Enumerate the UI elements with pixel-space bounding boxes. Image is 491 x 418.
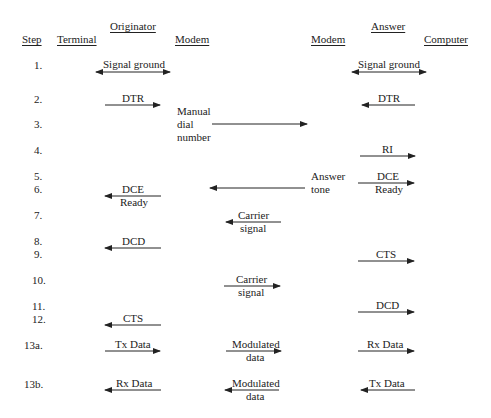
carrier-signal-answer-label-1: Carrier <box>238 209 269 222</box>
dce-ready-answer-label-2: Ready <box>375 183 403 196</box>
dce-ready-answer-label-1: DCE <box>377 170 399 183</box>
rx-data-originator-label: Rx Data <box>116 377 152 390</box>
signal-ground-originator-label: Signal ground <box>103 58 165 71</box>
rx-data-answer-label: Rx Data <box>367 338 403 351</box>
tx-data-answer-label: Tx Data <box>369 377 405 390</box>
answer-tone-label-2: tone <box>311 183 330 196</box>
modulated-data-reverse-label-1: Modulated <box>232 377 280 390</box>
cts-originator-label: CTS <box>123 312 143 325</box>
signal-ground-answer-label: Signal ground <box>358 58 420 71</box>
tx-data-originator-label: Tx Data <box>115 338 151 351</box>
manual-dial-label-3: number <box>177 131 211 144</box>
modulated-data-forward-label-2: data <box>246 351 264 364</box>
dce-ready-originator-label-1: DCE <box>122 183 144 196</box>
cts-answer-label: CTS <box>376 248 396 261</box>
answer-tone-label-1: Answer <box>311 170 345 183</box>
modulated-data-forward-label-1: Modulated <box>232 338 280 351</box>
manual-dial-label-2: dial <box>177 118 194 131</box>
dtr-originator-label: DTR <box>122 92 144 105</box>
dce-ready-originator-label-2: Ready <box>120 196 148 209</box>
dcd-answer-label: DCD <box>376 299 399 312</box>
manual-dial-label-1: Manual <box>177 105 211 118</box>
dtr-answer-label: DTR <box>378 92 400 105</box>
modulated-data-reverse-label-2: data <box>246 390 264 403</box>
ri-label: RI <box>382 143 393 156</box>
dcd-originator-label: DCD <box>122 235 145 248</box>
carrier-signal-answer-label-2: signal <box>240 222 266 235</box>
carrier-signal-originator-label-2: signal <box>238 286 264 299</box>
carrier-signal-originator-label-1: Carrier <box>236 273 267 286</box>
